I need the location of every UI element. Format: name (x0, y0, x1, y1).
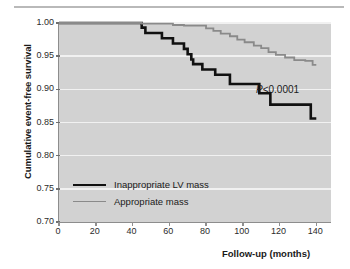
p-value-symbol: P (256, 84, 263, 95)
chart-legend: Inappropriate LV mass Appropriate mass (73, 176, 209, 210)
survival-curve-appropriate-mass (59, 23, 316, 65)
p-value-number: <0.0001 (263, 84, 299, 95)
x-tick-mark (95, 222, 97, 226)
y-tick-label: 0.90 (14, 83, 54, 93)
y-tick-label: 0.85 (14, 117, 54, 127)
y-tick-label: 1.00 (14, 17, 54, 27)
x-tick-mark (132, 222, 134, 226)
survival-curve-inappropriate-lv-mass (59, 23, 316, 119)
legend-label-appropriate: Appropriate mass (114, 196, 188, 207)
x-tick-label: 100 (227, 226, 257, 236)
p-value-annotation: P<0.0001 (256, 84, 299, 95)
x-tick-label: 20 (80, 226, 110, 236)
legend-item-appropriate: Appropriate mass (73, 193, 209, 210)
x-tick-mark (242, 222, 244, 226)
x-tick-mark (316, 222, 318, 226)
x-axis-label: Follow-up (months) (222, 248, 310, 259)
x-tick-mark (58, 222, 60, 226)
x-tick-label: 80 (190, 226, 220, 236)
x-tick-label: 0 (43, 226, 73, 236)
x-tick-mark (205, 222, 207, 226)
x-tick-mark (279, 222, 281, 226)
legend-line-icon-appropriate (73, 201, 106, 202)
y-tick-label: 0.95 (14, 50, 54, 60)
y-tick-label: 0.75 (14, 183, 54, 193)
y-axis-label: Cumulative event-free survival (22, 22, 33, 202)
plot-area: P<0.0001 Inappropriate LV mass Appropria… (58, 23, 331, 223)
legend-line-icon-inappropriate (73, 184, 106, 186)
legend-label-inappropriate: Inappropriate LV mass (114, 179, 209, 190)
y-tick-label: 0.80 (14, 150, 54, 160)
x-tick-label: 140 (300, 226, 330, 236)
x-tick-label: 60 (153, 226, 183, 236)
x-tick-label: 40 (117, 226, 147, 236)
x-tick-mark (169, 222, 171, 226)
x-tick-label: 120 (264, 226, 294, 236)
legend-item-inappropriate: Inappropriate LV mass (73, 176, 209, 193)
y-tick-label: 0.70 (14, 216, 54, 226)
figure-canvas: Cumulative event-free survival 0.700.750… (0, 0, 350, 269)
top-divider-rule (14, 6, 344, 8)
